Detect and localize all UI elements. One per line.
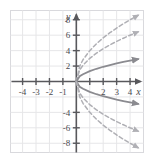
y-tick-label: -6: [63, 123, 71, 133]
x-tick-label: -3: [32, 87, 40, 97]
y-tick-label: 6: [66, 30, 71, 40]
y-tick-label: -8: [63, 138, 71, 148]
y-axis-label: y: [65, 11, 71, 22]
x-tick-label: -2: [46, 87, 54, 97]
y-tick-label: -4: [63, 108, 71, 118]
x-axis-label: x: [135, 86, 141, 97]
x-tick-label: 3: [114, 87, 119, 97]
coordinate-plane: -4-3-2-1234-8-6-42468yx: [0, 0, 148, 158]
y-tick-label: 2: [66, 61, 71, 71]
x-tick-label: 4: [128, 87, 133, 97]
graph-figure: -4-3-2-1234-8-6-42468yx: [0, 0, 148, 158]
x-tick-label: -4: [19, 87, 27, 97]
y-tick-label: 4: [66, 46, 71, 56]
x-tick-label: -1: [59, 87, 67, 97]
